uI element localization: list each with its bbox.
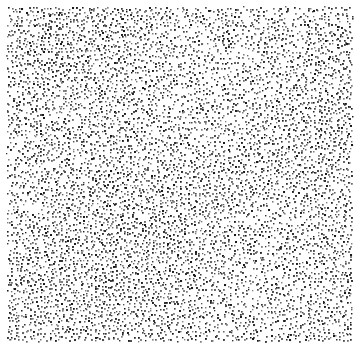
stipple-pattern [0,0,360,349]
